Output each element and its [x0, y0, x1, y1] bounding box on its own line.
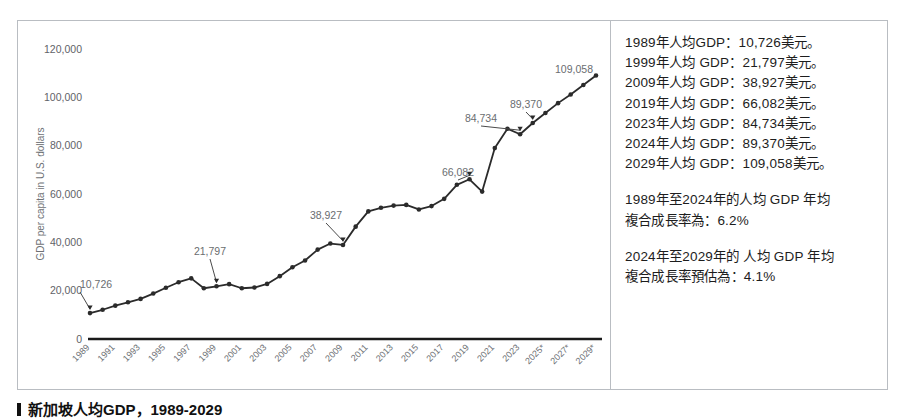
data-point-marker	[556, 101, 561, 106]
x-axis-tick-label: 1991	[95, 342, 116, 363]
x-axis-tick-label: 1995	[146, 342, 167, 363]
x-axis-tick-label: 2005	[273, 342, 294, 363]
data-point-marker	[353, 224, 358, 229]
fact-line-4: 2019年人均 GDP：66,082美元。	[625, 94, 879, 114]
data-point-marker	[277, 274, 282, 279]
data-point-marker	[493, 146, 498, 151]
y-axis-title: GDP per capita in U.S. dollars	[35, 127, 46, 260]
data-point-marker	[391, 203, 396, 208]
data-point-annotation: 21,797	[194, 245, 226, 257]
data-point-marker	[455, 183, 460, 188]
data-point-marker	[88, 311, 93, 316]
data-point-marker	[240, 286, 245, 291]
fact-line-5: 2023年人均 GDP：84,734美元。	[625, 114, 879, 134]
x-axis-tick-label: 1989	[70, 342, 91, 363]
spacer-1	[625, 174, 879, 190]
x-axis-tick-label: 2003	[247, 342, 268, 363]
fact-line-3: 2009年人均 GDP：38,927美元。	[625, 73, 879, 93]
data-point-marker	[164, 285, 169, 290]
x-axis-tick-label: 2007	[298, 342, 319, 363]
fact-line-1: 1989年人均GDP：10,726美元。	[625, 33, 879, 53]
cagr-historical-line-2: 複合成長率為：6.2%	[625, 211, 879, 231]
data-point-annotation: 38,927	[310, 209, 342, 221]
data-point-marker	[290, 265, 295, 270]
cagr-forecast-line-1: 2024年至2029年的 人均 GDP 年均	[625, 247, 879, 267]
data-point-marker	[379, 205, 384, 210]
data-point-marker	[594, 73, 599, 78]
x-axis-tick-label: 2027*	[548, 342, 572, 366]
data-point-marker	[227, 282, 232, 287]
summary-text-panel: 1989年人均GDP：10,726美元。 1999年人均 GDP：21,797美…	[611, 21, 887, 389]
figure-frame: 020,00040,00060,00080,000100,000120,000G…	[17, 20, 888, 390]
x-axis-tick-label: 2013	[374, 342, 395, 363]
x-axis-tick-label: 1999	[197, 342, 218, 363]
data-point-marker	[341, 243, 346, 248]
data-point-marker	[543, 111, 548, 116]
x-axis-tick-label: 2019	[450, 342, 471, 363]
data-point-annotation: 109,058	[555, 63, 593, 75]
fact-line-6: 2024年人均 GDP：89,370美元。	[625, 134, 879, 154]
y-axis-tick-label: 80,000	[50, 139, 82, 151]
x-axis-tick-label: 2029*	[574, 342, 598, 366]
x-axis-tick-label: 2017	[424, 342, 445, 363]
data-point-marker	[328, 241, 333, 246]
annotation-arrow-icon	[87, 306, 92, 311]
data-point-marker	[442, 197, 447, 202]
caption-text: 新加坡人均GDP，1989-2029	[28, 401, 222, 418]
y-axis-tick-label: 120,000	[44, 43, 82, 55]
cagr-historical-line-1: 1989年至2024年的人均 GDP 年均	[625, 190, 879, 210]
cagr-forecast-line-2: 複合成長率預估為：4.1%	[625, 267, 879, 287]
data-point-marker	[100, 307, 105, 312]
x-axis-tick-label: 2001	[222, 342, 243, 363]
data-point-marker	[581, 83, 586, 88]
data-point-marker	[126, 300, 131, 305]
data-point-marker	[265, 282, 270, 287]
y-axis-tick-label: 100,000	[44, 91, 82, 103]
data-point-marker	[530, 121, 535, 126]
annotation-leader-line	[326, 223, 343, 241]
x-axis-tick-label: 2015	[399, 342, 420, 363]
data-point-annotation: 10,726	[80, 278, 112, 290]
data-point-marker	[518, 132, 523, 137]
annotation-arrow-icon	[214, 279, 219, 284]
x-axis-tick-label: 2009	[323, 342, 344, 363]
data-point-marker	[568, 92, 573, 97]
data-point-marker	[176, 280, 181, 285]
annotation-arrow-icon	[518, 127, 523, 132]
chart-panel: 020,00040,00060,00080,000100,000120,000G…	[18, 21, 610, 389]
data-point-marker	[138, 297, 143, 302]
y-axis-tick-label: 20,000	[50, 284, 82, 296]
figure-caption: 新加坡人均GDP，1989-2029	[17, 398, 617, 418]
y-axis-tick-label: 60,000	[50, 188, 82, 200]
data-point-marker	[417, 207, 422, 212]
data-point-marker	[214, 284, 219, 289]
data-point-marker	[366, 209, 371, 214]
data-series-line	[90, 75, 596, 313]
x-axis-tick-label: 1993	[121, 342, 142, 363]
fact-line-2: 1999年人均 GDP：21,797美元。	[625, 53, 879, 73]
data-point-marker	[189, 276, 194, 281]
y-axis-tick-label: 0	[76, 333, 82, 345]
gdp-per-capita-line-chart: 020,00040,00060,00080,000100,000120,000G…	[18, 21, 610, 389]
data-point-marker	[480, 189, 485, 194]
data-point-marker	[252, 285, 257, 290]
annotation-leader-line	[481, 126, 520, 130]
x-axis-tick-label: 1997	[171, 342, 192, 363]
data-point-marker	[404, 203, 409, 208]
fact-line-7: 2029年人均 GDP：109,058美元。	[625, 154, 879, 174]
data-point-marker	[429, 204, 434, 209]
data-point-annotation: 84,734	[465, 112, 497, 124]
data-point-marker	[202, 286, 207, 291]
y-axis-tick-label: 40,000	[50, 236, 82, 248]
x-axis-tick-label: 2025*	[523, 342, 547, 366]
data-point-marker	[151, 291, 156, 296]
data-point-marker	[315, 247, 320, 252]
caption-bullet-icon	[17, 403, 21, 416]
x-axis-tick-label: 2011	[349, 342, 370, 363]
data-point-marker	[113, 303, 118, 308]
spacer-2	[625, 231, 879, 247]
x-axis-tick-label: 2023	[500, 342, 521, 363]
data-point-annotation: 89,370	[510, 98, 542, 110]
x-axis-tick-label: 2021	[475, 342, 496, 363]
data-point-marker	[303, 258, 308, 263]
